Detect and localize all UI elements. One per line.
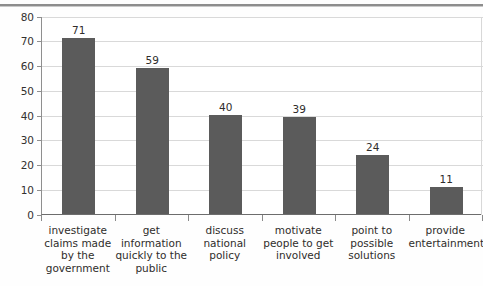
x-axis-tick bbox=[188, 215, 189, 221]
y-axis-tick bbox=[37, 91, 42, 92]
bar bbox=[209, 115, 242, 214]
x-axis-label-line: solutions bbox=[335, 249, 409, 262]
y-axis-label: 30 bbox=[21, 135, 34, 146]
x-axis-tick bbox=[115, 215, 116, 221]
y-axis-label: 10 bbox=[21, 185, 34, 196]
bar bbox=[283, 117, 316, 214]
x-axis-label-line: quickly to the bbox=[115, 249, 189, 262]
bar bbox=[430, 187, 463, 214]
y-axis-label: 40 bbox=[21, 111, 34, 122]
y-axis-tick bbox=[37, 190, 42, 191]
x-axis-label-line: national bbox=[188, 237, 262, 250]
x-axis-tick bbox=[262, 215, 263, 221]
x-axis-tick bbox=[335, 215, 336, 221]
y-axis-tick-labels: 01020304050607080 bbox=[0, 17, 34, 215]
x-axis-category-label: getinformationquickly to thepublic bbox=[115, 224, 189, 274]
y-axis-label: 20 bbox=[21, 160, 34, 171]
y-axis-tick bbox=[37, 41, 42, 42]
x-axis-label-line: discuss bbox=[188, 224, 262, 237]
x-axis-tick bbox=[409, 215, 410, 221]
y-axis-label: 0 bbox=[27, 210, 34, 221]
y-axis-label: 70 bbox=[21, 36, 34, 47]
x-axis-label-line: government bbox=[41, 262, 115, 275]
gridline bbox=[42, 66, 483, 67]
x-axis-label-line: people to get bbox=[262, 237, 336, 250]
bar-value-label: 11 bbox=[416, 174, 477, 185]
y-axis-label: 60 bbox=[21, 61, 34, 72]
bar-value-label: 71 bbox=[48, 25, 109, 36]
plot-area: 715940392411 bbox=[41, 17, 482, 215]
x-axis-label-line: investigate bbox=[41, 224, 115, 237]
x-axis-label-line: get bbox=[115, 224, 189, 237]
gridline bbox=[42, 17, 483, 18]
x-axis-label-line: involved bbox=[262, 249, 336, 262]
bar-value-label: 39 bbox=[269, 104, 330, 115]
y-axis-tick bbox=[37, 17, 42, 18]
bar bbox=[62, 38, 95, 214]
gridline bbox=[42, 190, 483, 191]
x-axis-category-label: motivatepeople to getinvolved bbox=[262, 224, 336, 262]
x-axis-label-line: information bbox=[115, 237, 189, 250]
y-axis-tick bbox=[37, 66, 42, 67]
y-axis-label: 80 bbox=[21, 12, 34, 23]
bar bbox=[356, 155, 389, 214]
x-axis-category-label: provideentertainment bbox=[409, 224, 483, 249]
gridline bbox=[42, 165, 483, 166]
gridline bbox=[42, 41, 483, 42]
plot-right-edge bbox=[481, 17, 482, 215]
x-axis-category-label: discussnationalpolicy bbox=[188, 224, 262, 262]
y-axis-label: 50 bbox=[21, 86, 34, 97]
gridline bbox=[42, 140, 483, 141]
bar-value-label: 40 bbox=[195, 102, 256, 113]
x-axis-label-line: by the bbox=[41, 249, 115, 262]
y-axis-tick bbox=[37, 116, 42, 117]
gridline bbox=[42, 116, 483, 117]
x-axis-tick-labels: investigateclaims madeby thegovernmentge… bbox=[41, 224, 482, 284]
gridline bbox=[42, 91, 483, 92]
x-axis-label-line: policy bbox=[188, 249, 262, 262]
x-axis-category-label: point topossiblesolutions bbox=[335, 224, 409, 262]
y-axis-tick bbox=[37, 140, 42, 141]
x-axis-label-line: provide bbox=[409, 224, 483, 237]
x-axis-label-line: claims made bbox=[41, 237, 115, 250]
bar-value-label: 24 bbox=[342, 142, 403, 153]
x-axis-label-line: motivate bbox=[262, 224, 336, 237]
bar-value-label: 59 bbox=[122, 55, 183, 66]
x-axis-label-line: public bbox=[115, 262, 189, 275]
top-border-rule-light bbox=[0, 6, 483, 7]
x-axis-label-line: possible bbox=[335, 237, 409, 250]
bar-chart: 01020304050607080 715940392411 investiga… bbox=[0, 0, 483, 286]
x-axis-label-line: point to bbox=[335, 224, 409, 237]
x-axis-label-line: entertainment bbox=[409, 237, 483, 250]
x-axis-tick bbox=[41, 215, 42, 221]
bar bbox=[136, 68, 169, 214]
y-axis-tick bbox=[37, 165, 42, 166]
x-axis-category-label: investigateclaims madeby thegovernment bbox=[41, 224, 115, 274]
